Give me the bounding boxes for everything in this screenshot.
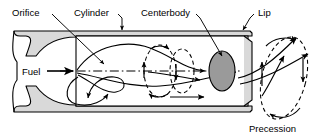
label-lip: Lip	[258, 7, 271, 18]
label-orifice: Orifice	[12, 7, 39, 18]
label-centerbody: Centerbody	[141, 7, 190, 18]
label-precession: Precession	[249, 123, 296, 134]
centerbody	[209, 51, 235, 91]
schematic-svg: Orifice Cylinder Centerbody Lip Fuel Pre…	[0, 0, 315, 138]
label-fuel: Fuel	[22, 66, 40, 77]
figure-container: Orifice Cylinder Centerbody Lip Fuel Pre…	[0, 0, 315, 138]
exit-lip	[244, 36, 252, 106]
label-cylinder: Cylinder	[74, 7, 109, 18]
